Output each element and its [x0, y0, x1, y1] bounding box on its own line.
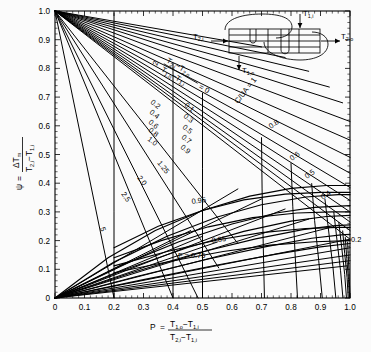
x-ticklabel: 0.1	[79, 303, 91, 312]
x-ticklabel: 0.4	[167, 303, 179, 312]
x-ticklabel: 0.3	[138, 303, 150, 312]
y-ticklabel: 0.9	[39, 36, 51, 45]
x-ticklabel: 0.9	[315, 303, 327, 312]
y-ticklabel: 0.5	[39, 151, 51, 160]
x-ticklabel: 0.5	[197, 303, 209, 312]
x-axis-equals: =	[160, 322, 165, 332]
y-ticklabel: 0.6	[39, 122, 51, 131]
y-ticklabel: 0.7	[39, 93, 51, 102]
y-ticklabel: 0.8	[39, 64, 51, 73]
x-ticklabel: 0.2	[108, 303, 120, 312]
x-axis-p: P	[150, 322, 156, 332]
x-ticklabel: 0.7	[256, 303, 268, 312]
curve-label-f-02: 0.2	[351, 235, 361, 244]
x-ticklabel: 0.8	[285, 303, 297, 312]
x-ticklabel: 0.6	[226, 303, 238, 312]
x-ticklabel: 1.0	[344, 303, 356, 312]
y-ticklabel: 0	[45, 294, 50, 303]
y-axis-psi: ψ	[14, 184, 24, 190]
y-ticklabel: 0.4	[39, 179, 51, 188]
curve-label-f-02-text: 0.2	[351, 235, 361, 244]
y-ticklabel: 1.0	[39, 7, 51, 16]
curve-label-f-075: F = 0.75	[178, 251, 205, 260]
y-axis-equals: =	[14, 176, 24, 181]
chart-figure: 00.10.20.30.40.50.60.70.80.91.0 00.10.20…	[0, 0, 371, 352]
curve-label-f-075-text: F = 0.75	[178, 251, 205, 260]
chart-svg: 00.10.20.30.40.50.60.70.80.91.0 00.10.20…	[0, 0, 371, 352]
y-ticklabel: 0.1	[39, 265, 51, 274]
y-ticklabel: 0.2	[39, 237, 51, 246]
y-ticklabel: 0.3	[39, 208, 51, 217]
x-ticklabel: 0	[53, 303, 58, 312]
